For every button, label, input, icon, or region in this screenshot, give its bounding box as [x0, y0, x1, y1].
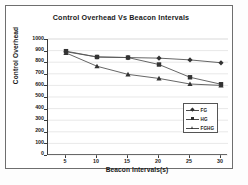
y-axis-label: Control Overhead — [12, 13, 19, 99]
legend-label: HG — [201, 117, 208, 122]
chart-figure: Control Overhead Vs Beacon Intervals Con… — [0, 0, 248, 185]
series-line-hg — [66, 51, 221, 84]
chart-title: Control Overhead Vs Beacon Intervals — [16, 13, 226, 22]
y-tick-label: 900 — [22, 47, 44, 52]
legend-marker-triangle-icon — [186, 125, 199, 132]
y-tick-label: 200 — [22, 128, 44, 133]
data-point-fg-30 — [218, 60, 223, 65]
x-tick-label: 30 — [210, 159, 230, 164]
x-tick-label: 25 — [179, 159, 199, 164]
data-series-group — [63, 49, 223, 88]
x-tick-label: 5 — [55, 159, 75, 164]
chart-plot-svg — [48, 39, 228, 155]
legend-label: FG — [201, 108, 208, 113]
x-tick-label: 15 — [117, 159, 137, 164]
plot-area — [47, 39, 227, 155]
x-tick-label: 10 — [86, 159, 106, 164]
data-point-fg-25 — [187, 57, 192, 62]
legend-item-hg[interactable]: HG — [184, 115, 217, 124]
y-tick-label: 500 — [22, 93, 44, 98]
legend-item-fghg[interactable]: FGHG — [184, 124, 217, 133]
legend-marker-diamond-icon — [186, 107, 199, 114]
data-point-fg-20 — [156, 56, 161, 61]
y-tick-mark — [44, 155, 47, 156]
y-tick-label: 800 — [22, 58, 44, 63]
y-tick-label: 100 — [22, 140, 44, 145]
legend-marker-square-icon — [186, 116, 199, 123]
x-axis-label: Beacon Intervals(s) — [47, 166, 227, 173]
chart-legend[interactable]: FG HG FGHG — [183, 103, 218, 133]
data-point-hg-25 — [188, 75, 192, 79]
y-tick-label: 0 — [22, 151, 44, 156]
y-tick-label: 700 — [22, 70, 44, 75]
data-point-fghg-10 — [94, 64, 99, 69]
y-tick-label: 300 — [22, 116, 44, 121]
data-point-hg-15 — [126, 55, 130, 59]
legend-label: FGHG — [201, 126, 215, 131]
legend-item-fg[interactable]: FG — [184, 106, 217, 115]
data-point-hg-10 — [95, 55, 99, 59]
y-tick-label: 1000 — [22, 36, 44, 41]
y-tick-label: 400 — [22, 105, 44, 110]
x-tick-label: 20 — [148, 159, 168, 164]
data-point-hg-20 — [157, 62, 161, 66]
y-tick-label: 600 — [22, 82, 44, 87]
